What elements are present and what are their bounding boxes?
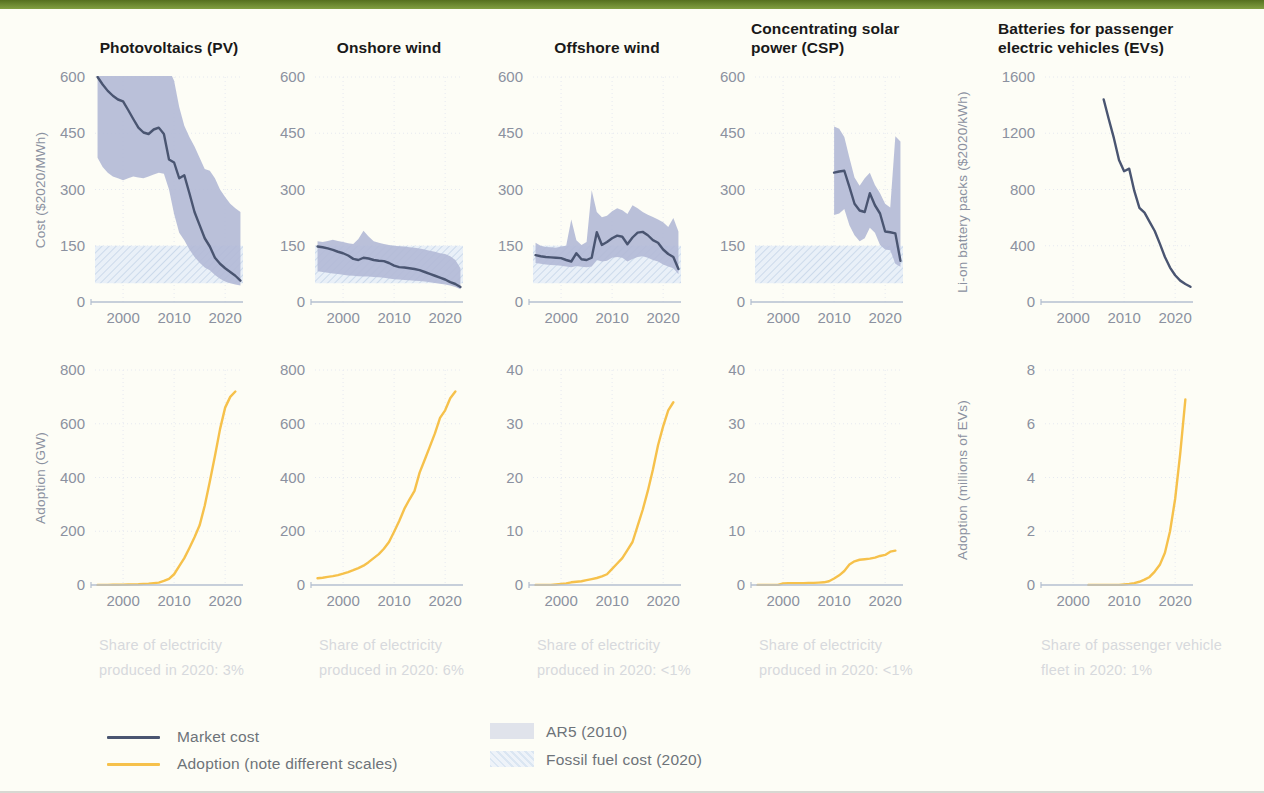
legend-adoption-label: Adoption (note different scales) <box>177 755 398 773</box>
adoption-line-swatch <box>107 763 160 766</box>
svg-text:2010: 2010 <box>1107 592 1140 609</box>
csp-cost-chart-svg: 0150300450600200020102020 <box>693 67 909 335</box>
svg-text:200: 200 <box>280 522 305 539</box>
onshore-wind-adoption-chart: 0200400600800200020102020 <box>253 360 469 626</box>
csp-adoption-chart: 010203040200020102020 <box>693 360 909 626</box>
svg-text:2010: 2010 <box>157 309 190 326</box>
svg-text:150: 150 <box>60 237 85 254</box>
svg-text:2000: 2000 <box>766 592 799 609</box>
svg-text:300: 300 <box>720 181 745 198</box>
csp-adoption-chart-svg: 010203040200020102020 <box>693 360 909 622</box>
svg-text:300: 300 <box>498 181 523 198</box>
svg-text:40: 40 <box>506 361 523 378</box>
svg-text:400: 400 <box>280 469 305 486</box>
svg-text:2020: 2020 <box>1158 592 1191 609</box>
onshore-wind-column-title: Onshore wind <box>279 38 499 57</box>
svg-text:2000: 2000 <box>326 592 359 609</box>
svg-text:300: 300 <box>60 181 85 198</box>
offshore-share-caption: Share of electricity produced in 2020: <… <box>537 633 719 683</box>
svg-text:0: 0 <box>297 293 305 310</box>
svg-text:2000: 2000 <box>544 309 577 326</box>
ev-share-caption: Share of passenger vehicle fleet in 2020… <box>1041 633 1223 683</box>
svg-text:2020: 2020 <box>428 592 461 609</box>
svg-text:2020: 2020 <box>646 592 679 609</box>
figure-page: Photovoltaics (PV) Onshore wind Offshore… <box>0 0 1264 793</box>
svg-text:0: 0 <box>77 293 85 310</box>
onshore-wind-cost-chart: 0150300450600200020102020 <box>253 67 469 339</box>
offshore-wind-cost-chart-svg: 0150300450600200020102020 <box>471 67 687 335</box>
svg-text:30: 30 <box>506 415 523 432</box>
svg-text:0: 0 <box>737 293 745 310</box>
pv-column-title: Photovoltaics (PV) <box>59 38 279 57</box>
svg-text:2000: 2000 <box>544 592 577 609</box>
svg-text:0: 0 <box>297 576 305 593</box>
svg-text:2010: 2010 <box>157 592 190 609</box>
market-cost-line-swatch <box>107 736 160 739</box>
svg-text:0: 0 <box>515 576 523 593</box>
svg-text:600: 600 <box>498 68 523 85</box>
pv-share-caption: Share of electricity produced in 2020: 3… <box>99 633 281 683</box>
fossil-fuel-band-swatch <box>490 751 534 767</box>
svg-text:2020: 2020 <box>208 309 241 326</box>
svg-text:400: 400 <box>1010 237 1035 254</box>
svg-text:2000: 2000 <box>326 309 359 326</box>
pv-cost-chart: 0150300450600200020102020 <box>33 67 249 339</box>
svg-text:600: 600 <box>720 68 745 85</box>
csp-share-caption: Share of electricity produced in 2020: <… <box>759 633 941 683</box>
offshore-wind-adoption-chart: 010203040200020102020 <box>471 360 687 626</box>
svg-text:4: 4 <box>1027 469 1035 486</box>
svg-text:2000: 2000 <box>1056 309 1089 326</box>
svg-text:400: 400 <box>60 469 85 486</box>
svg-text:2020: 2020 <box>428 309 461 326</box>
csp-column-title: Concentrating solar power (CSP) <box>751 19 916 57</box>
svg-text:0: 0 <box>1027 576 1035 593</box>
svg-text:0: 0 <box>515 293 523 310</box>
svg-text:20: 20 <box>506 469 523 486</box>
svg-text:0: 0 <box>1027 293 1035 310</box>
svg-text:8: 8 <box>1027 361 1035 378</box>
svg-text:2000: 2000 <box>106 592 139 609</box>
svg-text:600: 600 <box>280 415 305 432</box>
ev-adoption-chart: 02468200020102020 <box>983 360 1199 626</box>
onshore-share-caption: Share of electricity produced in 2020: 6… <box>319 633 501 683</box>
top-border-bar <box>0 0 1264 9</box>
ev-battery-cost-chart-svg: 040080012001600200020102020 <box>983 67 1199 335</box>
pv-cost-chart-svg: 0150300450600200020102020 <box>33 67 249 335</box>
svg-text:2010: 2010 <box>377 309 410 326</box>
svg-text:200: 200 <box>60 522 85 539</box>
svg-text:2010: 2010 <box>595 309 628 326</box>
svg-text:0: 0 <box>77 576 85 593</box>
svg-text:20: 20 <box>728 469 745 486</box>
svg-text:450: 450 <box>60 124 85 141</box>
svg-text:30: 30 <box>728 415 745 432</box>
onshore-wind-cost-chart-svg: 0150300450600200020102020 <box>253 67 469 335</box>
csp-cost-chart: 0150300450600200020102020 <box>693 67 909 339</box>
legend-market-cost-label: Market cost <box>177 728 259 746</box>
svg-text:600: 600 <box>60 415 85 432</box>
svg-text:2020: 2020 <box>868 592 901 609</box>
svg-text:2010: 2010 <box>1107 309 1140 326</box>
offshore-wind-column-title: Offshore wind <box>497 38 717 57</box>
svg-text:300: 300 <box>280 181 305 198</box>
svg-text:150: 150 <box>498 237 523 254</box>
pv-adoption-chart: 0200400600800200020102020 <box>33 360 249 626</box>
svg-text:800: 800 <box>1010 181 1035 198</box>
svg-text:2000: 2000 <box>106 309 139 326</box>
svg-text:10: 10 <box>728 522 745 539</box>
svg-text:2010: 2010 <box>377 592 410 609</box>
onshore-wind-adoption-chart-svg: 0200400600800200020102020 <box>253 360 469 622</box>
svg-text:2: 2 <box>1027 522 1035 539</box>
svg-text:2010: 2010 <box>817 309 850 326</box>
ev-battery-column-title: Batteries for passenger electric vehicle… <box>998 19 1193 57</box>
svg-text:1600: 1600 <box>1002 68 1035 85</box>
offshore-wind-adoption-chart-svg: 010203040200020102020 <box>471 360 687 622</box>
svg-text:6: 6 <box>1027 415 1035 432</box>
svg-text:2020: 2020 <box>868 309 901 326</box>
svg-text:10: 10 <box>506 522 523 539</box>
svg-text:450: 450 <box>720 124 745 141</box>
svg-text:450: 450 <box>280 124 305 141</box>
svg-text:2010: 2010 <box>595 592 628 609</box>
svg-text:2020: 2020 <box>646 309 679 326</box>
svg-text:2020: 2020 <box>208 592 241 609</box>
svg-text:0: 0 <box>737 576 745 593</box>
